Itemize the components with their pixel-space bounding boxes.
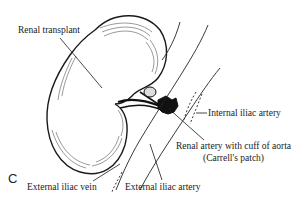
- label-renal-transplant: Renal transplant: [18, 26, 80, 36]
- label-external-iliac-artery: External iliac artery: [125, 183, 200, 193]
- carrells-patch: [158, 96, 178, 114]
- panel-letter: C: [8, 172, 17, 185]
- renal-transplant-diagram: Renal transplant Internal iliac artery R…: [0, 0, 297, 197]
- label-renal-artery-line2: (Carrell's patch): [170, 154, 297, 164]
- label-renal-artery-line1: Renal artery with cuff of aorta: [170, 142, 297, 152]
- label-external-iliac-vein: External iliac vein: [27, 183, 97, 193]
- label-internal-iliac-artery: Internal iliac artery: [208, 109, 281, 119]
